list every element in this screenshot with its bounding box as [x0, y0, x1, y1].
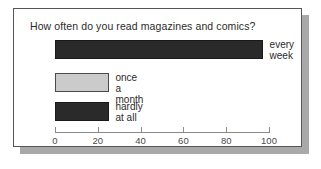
x-axis-tick-label: 0 — [52, 135, 57, 146]
x-axis-tick — [183, 127, 184, 132]
x-axis-tick — [98, 127, 99, 132]
bar-label-every-week: every week — [270, 39, 294, 61]
x-axis-tick — [269, 127, 270, 132]
x-axis-line — [55, 132, 270, 133]
x-axis-tick-label: 40 — [135, 135, 146, 146]
bar-every-week[interactable] — [55, 40, 263, 59]
chart-title: How often do you read magazines and comi… — [30, 20, 256, 32]
bar-hardly-at-all[interactable] — [55, 102, 109, 121]
x-axis-tick — [55, 127, 56, 132]
chart-card: How often do you read magazines and comi… — [13, 8, 302, 147]
x-axis-tick — [226, 127, 227, 132]
bar-label-hardly-at-all: hardly at all — [116, 101, 143, 123]
bar-once-a-month[interactable] — [55, 73, 109, 92]
x-axis: 020406080100 — [55, 127, 270, 153]
x-axis-tick-label: 100 — [261, 135, 277, 146]
x-axis-tick-label: 80 — [221, 135, 232, 146]
plot-area: every week once a month hardly at all — [55, 40, 269, 124]
x-axis-tick-label: 20 — [93, 135, 104, 146]
x-axis-tick-label: 60 — [178, 135, 189, 146]
x-axis-tick — [141, 127, 142, 132]
